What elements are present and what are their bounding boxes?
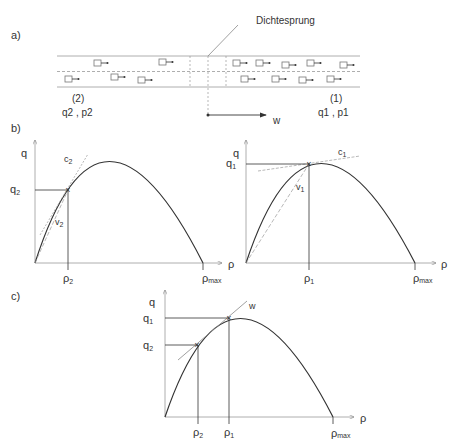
fundamental-diagram-curve	[246, 164, 415, 264]
v2-label: v2	[55, 217, 64, 228]
rho1-label: ρ1	[224, 426, 234, 439]
panel-c-chart: × × q q1 q2 w ρ2 ρ1 ρmax ρ	[143, 290, 366, 439]
svg-text:×: ×	[65, 185, 70, 195]
panel-b-label: b)	[11, 122, 21, 134]
rhomax-label: ρmax	[331, 427, 351, 439]
upstream-values: q2 , p2	[62, 107, 93, 118]
upstream-index: (2)	[72, 93, 84, 104]
svg-text:ρ: ρ	[228, 258, 234, 270]
panel-b-left-chart: × q q2 c2 v2 ρ2 ρmax ρ	[10, 140, 234, 285]
svg-text:ρ: ρ	[441, 258, 447, 270]
tangent-c2	[40, 154, 88, 235]
fundamental-diagram-curve	[165, 319, 333, 418]
dichtesprung-label: Dichtesprung	[256, 15, 315, 26]
svg-text:q: q	[233, 147, 239, 159]
wave-label: w	[272, 115, 281, 126]
panel-a-label: a)	[11, 29, 21, 41]
w-label: w	[248, 301, 256, 311]
svg-text:ρ: ρ	[360, 412, 366, 424]
svg-text:×: ×	[306, 159, 311, 169]
rhomax-label: ρmax	[202, 272, 222, 284]
panel-c-label: c)	[11, 290, 20, 302]
v1-label: v1	[296, 182, 305, 193]
q2-label: q2	[143, 339, 153, 352]
svg-text:×: ×	[194, 340, 199, 350]
c2-label: c2	[64, 154, 73, 165]
rho2-label: ρ2	[63, 272, 73, 285]
downstream-index: (1)	[330, 93, 342, 104]
downstream-values: q1 , p1	[318, 107, 349, 118]
rho2-label: ρ2	[193, 426, 203, 439]
c1-label: c1	[338, 147, 347, 158]
rhomax-label: ρmax	[413, 272, 433, 284]
fundamental-diagram-curve	[35, 162, 203, 264]
annotation-leader	[208, 25, 238, 56]
svg-text:q: q	[149, 296, 155, 308]
secant-v1	[246, 164, 309, 263]
shockwave-secant-w	[178, 301, 247, 360]
svg-text:q: q	[21, 147, 27, 159]
vehicles-upstream	[65, 59, 174, 83]
shockwave-diagram: a) Dichtesprung	[0, 0, 453, 444]
q2-label: q2	[10, 183, 20, 196]
panel-a: a) Dichtesprung	[11, 15, 360, 126]
road	[57, 56, 360, 115]
svg-text:×: ×	[226, 313, 231, 323]
rho1-label: ρ1	[304, 272, 314, 285]
panel-b-right-chart: × q q1 c1 v1 ρ1 ρmax ρ	[226, 140, 447, 285]
q1-label: q1	[143, 312, 153, 325]
